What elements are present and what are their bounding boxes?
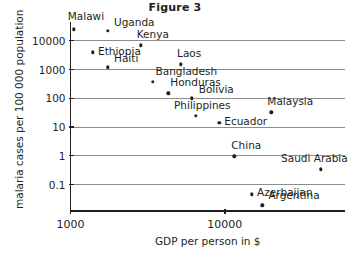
y-tick-label: 10000 — [32, 35, 65, 47]
data-point[interactable] — [270, 110, 273, 113]
y-tick-label: 0.1 — [49, 179, 66, 191]
x-tick-label: 10000 — [207, 218, 242, 231]
data-point[interactable] — [250, 193, 253, 196]
data-point-label: Bolivia — [199, 83, 234, 95]
x-axis-title: GDP per person in $ — [155, 235, 261, 247]
data-point[interactable] — [194, 114, 197, 117]
y-axis-title: malaria cases per 100 000 population — [13, 10, 25, 209]
figure-container: Figure 3 0.1110100100010000100010000GDP … — [0, 0, 350, 258]
data-point-label: Bangladesh — [156, 65, 218, 77]
y-gridline — [71, 40, 346, 41]
data-point-label: China — [231, 139, 261, 151]
y-tick-label: 100 — [45, 92, 65, 104]
data-point[interactable] — [218, 121, 221, 124]
data-point[interactable] — [319, 168, 322, 171]
data-point[interactable] — [233, 155, 236, 158]
y-tick-label: 10 — [52, 121, 65, 133]
data-point-label: Argentina — [268, 189, 319, 201]
data-point-label: Ecuador — [224, 115, 267, 127]
data-point-label: Laos — [177, 47, 201, 59]
data-point[interactable] — [106, 29, 109, 32]
data-point[interactable] — [151, 80, 154, 83]
data-point[interactable] — [91, 51, 94, 54]
y-tick-label: 1 — [59, 150, 66, 162]
x-axis-line — [70, 210, 346, 212]
data-point-label: Malawi — [68, 10, 104, 22]
data-point-label: Philippines — [174, 99, 231, 111]
data-point-label: Kenya — [137, 28, 169, 40]
data-point[interactable] — [72, 28, 75, 31]
y-axis-line — [70, 22, 72, 213]
data-point-label: Haiti — [114, 52, 138, 64]
data-point[interactable] — [261, 204, 264, 207]
data-point-label: Uganda — [114, 16, 155, 28]
data-point-label: Malaysia — [267, 95, 313, 107]
y-gridline — [71, 127, 346, 128]
data-point-label: Saudi Arabia — [281, 152, 348, 164]
scatter-plot-area: 0.1110100100010000100010000GDP per perso… — [0, 0, 350, 258]
y-gridline — [71, 184, 346, 185]
x-tick-label: 1000 — [57, 218, 85, 231]
y-tick-label: 1000 — [39, 64, 66, 76]
data-point[interactable] — [167, 92, 170, 95]
